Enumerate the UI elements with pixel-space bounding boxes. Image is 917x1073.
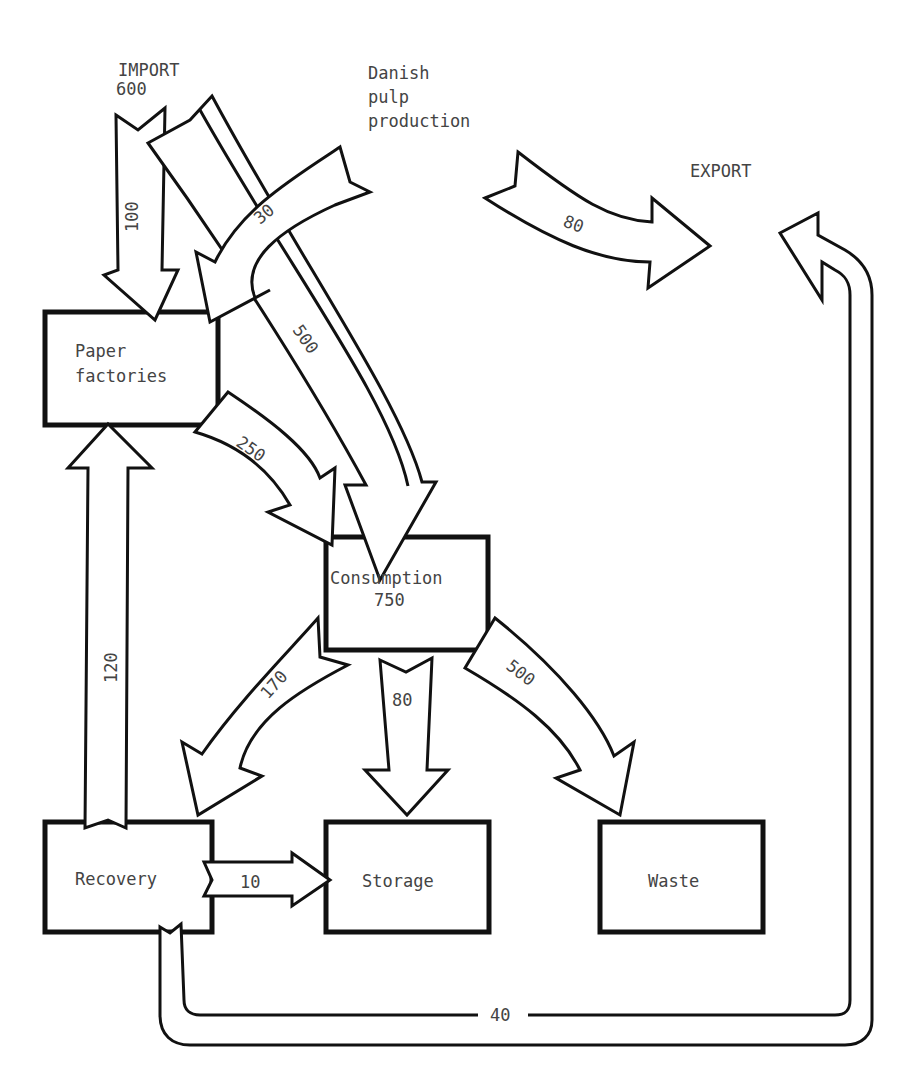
flow-arrow-recovery-storage (204, 853, 330, 906)
danish-pulp-label: Danish pulp production (368, 63, 470, 131)
svg-text:120: 120 (101, 652, 121, 683)
svg-text:Paper: Paper (75, 341, 126, 361)
svg-text:pulp: pulp (368, 87, 409, 107)
flow-arrow-consumption-recovery (182, 618, 348, 815)
flow-arrow-pulp-export (485, 152, 710, 288)
svg-text:40: 40 (490, 1005, 510, 1025)
flow-arrow-recovery-factories (68, 424, 152, 828)
storage-label: Storage (362, 871, 434, 891)
flow-arrow-factories-consumption (195, 392, 335, 545)
flow-arrow-consumption-storage (365, 658, 448, 815)
flow-arrow-consumption-waste (465, 618, 634, 815)
svg-text:100: 100 (122, 201, 142, 232)
paper-flow-diagram: IMPORT 600 Danish pulp production EXPORT… (0, 0, 917, 1073)
svg-text:10: 10 (240, 872, 260, 892)
svg-text:750: 750 (374, 590, 405, 610)
svg-text:600: 600 (116, 79, 147, 99)
export-label: EXPORT (690, 161, 751, 181)
recovery-label: Recovery (75, 869, 157, 889)
waste-label: Waste (648, 871, 699, 891)
svg-text:IMPORT: IMPORT (118, 60, 179, 80)
svg-text:Consumption: Consumption (330, 568, 443, 588)
import-label: IMPORT 600 (116, 60, 179, 99)
svg-text:80: 80 (392, 690, 412, 710)
consumption-box (326, 537, 488, 650)
svg-text:factories: factories (75, 366, 167, 386)
svg-text:Danish: Danish (368, 63, 429, 83)
svg-text:production: production (368, 111, 470, 131)
